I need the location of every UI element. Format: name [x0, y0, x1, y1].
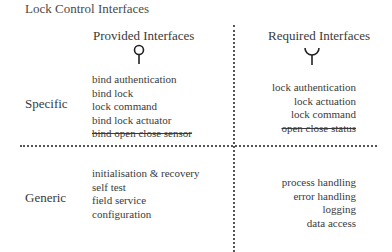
- interface-item-removed: bind open close sensor: [92, 127, 192, 141]
- interface-item: bind lock: [92, 87, 192, 101]
- interface-item-removed: open close status: [240, 122, 356, 136]
- diagram-title: Lock Control Interfaces: [25, 1, 149, 17]
- interface-item: self test: [92, 181, 200, 195]
- provided-interface-lollipop-icon: [131, 44, 147, 66]
- vertical-divider: [233, 25, 235, 252]
- interface-item: configuration: [92, 208, 200, 222]
- interface-item: lock command: [240, 108, 356, 122]
- generic-provided-list: initialisation & recoveryself testfield …: [92, 167, 200, 221]
- interface-item: field service: [92, 194, 200, 208]
- interface-item: bind authentication: [92, 73, 192, 87]
- interface-item: data access: [240, 217, 356, 231]
- row-label-specific: Specific: [25, 96, 68, 112]
- row-label-generic: Generic: [25, 190, 66, 206]
- interface-item: error handling: [240, 190, 356, 204]
- specific-provided-list: bind authenticationbind locklock command…: [92, 73, 192, 141]
- interface-item: lock actuation: [240, 95, 356, 109]
- required-interface-socket-icon: [302, 46, 322, 66]
- interface-item: bind lock actuator: [92, 114, 192, 128]
- interface-item: logging: [240, 203, 356, 217]
- interface-item: lock command: [92, 100, 192, 114]
- interface-item: process handling: [240, 176, 356, 190]
- interface-item: initialisation & recovery: [92, 167, 200, 181]
- provided-interfaces-header: Provided Interfaces: [93, 28, 194, 44]
- specific-required-list: lock authenticationlock actuationlock co…: [240, 81, 356, 135]
- interface-item: lock authentication: [240, 81, 356, 95]
- horizontal-divider: [20, 145, 377, 147]
- required-interfaces-header: Required Interfaces: [268, 28, 370, 44]
- generic-required-list: process handlingerror handlingloggingdat…: [240, 176, 356, 230]
